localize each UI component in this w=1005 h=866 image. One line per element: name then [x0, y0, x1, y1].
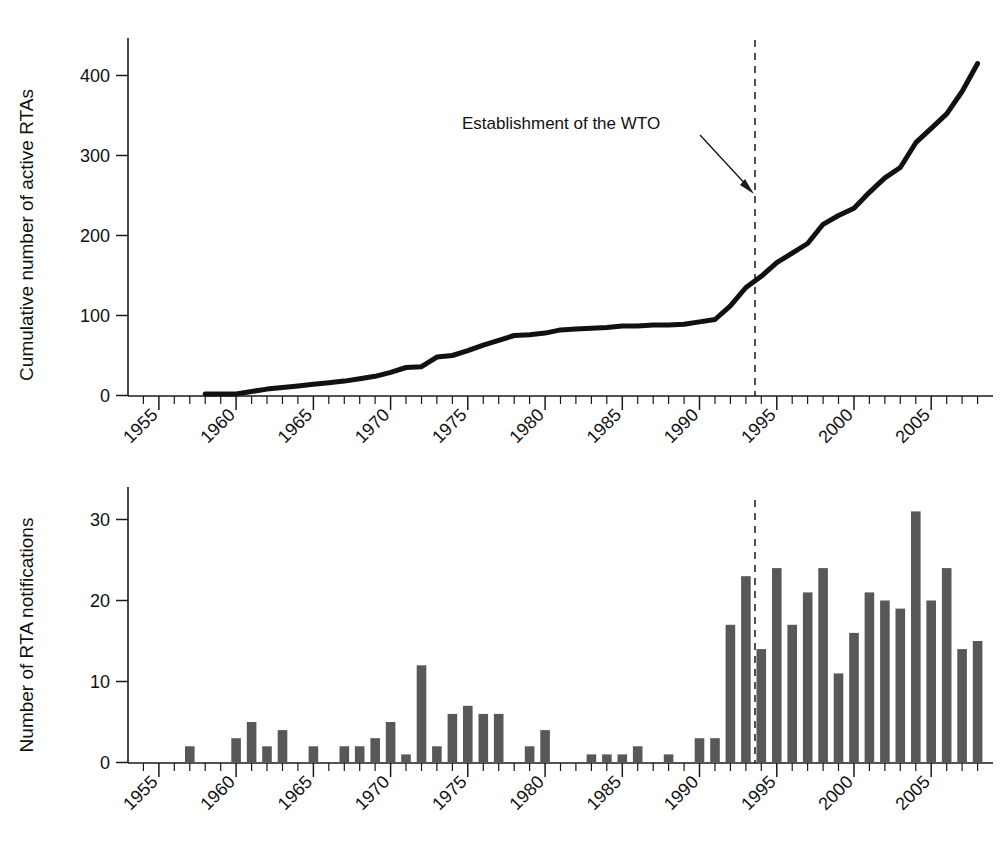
bar-1972 — [417, 665, 427, 762]
bar-1988 — [664, 754, 674, 762]
bar-2008 — [973, 641, 983, 763]
bar-1992 — [726, 625, 736, 763]
x-tick-label-1960: 1960 — [196, 405, 238, 447]
bar-1997 — [803, 592, 813, 762]
x-tick-label-1995: 1995 — [737, 772, 779, 814]
x-tick-label-1970: 1970 — [351, 405, 393, 447]
bar-1993 — [741, 576, 751, 762]
bar-1969 — [370, 738, 380, 762]
x-tick-label-2000: 2000 — [814, 405, 856, 447]
bottom-y-axis-label: Number of RTA notifications — [16, 518, 37, 753]
x-tick-label-2000: 2000 — [814, 772, 856, 814]
bar-1980 — [540, 730, 550, 762]
top-y-tick-label-200: 200 — [80, 226, 110, 246]
top-y-ticks: 0 100 200 300 400 — [80, 66, 128, 406]
bar-1967 — [340, 746, 350, 762]
bar-2007 — [957, 649, 967, 762]
x-tick-label-1965: 1965 — [274, 405, 316, 447]
x-tick-label-1995: 1995 — [737, 405, 779, 447]
bottom-y-tick-label-10: 10 — [90, 672, 110, 692]
top-y-tick-label-0: 0 — [100, 386, 110, 406]
bottom-panel-rta-notifications: Number of RTA notifications 0 10 20 30 1… — [16, 487, 993, 814]
bar-1983 — [587, 754, 597, 762]
bar-1979 — [525, 746, 535, 762]
bar-1995 — [772, 568, 782, 762]
bar-1968 — [355, 746, 365, 762]
x-tick-label-1955: 1955 — [119, 772, 161, 814]
rta-figure: Cumulative number of active RTAs 0 100 2… — [0, 0, 1005, 866]
top-y-tick-label-300: 300 — [80, 146, 110, 166]
x-tick-label-1960: 1960 — [196, 772, 238, 814]
rta-notification-bars — [185, 511, 982, 762]
bar-1976 — [479, 714, 489, 763]
bar-2006 — [942, 568, 952, 762]
bar-1961 — [247, 722, 257, 763]
chart-svg: Cumulative number of active RTAs 0 100 2… — [0, 0, 1005, 866]
top-x-ticks — [143, 396, 977, 410]
bar-1994 — [757, 649, 767, 762]
bar-1971 — [401, 754, 411, 762]
bar-1975 — [463, 706, 473, 763]
bar-2003 — [896, 609, 906, 763]
top-panel-cumulative-rtas: Cumulative number of active RTAs 0 100 2… — [16, 38, 993, 447]
bar-1986 — [633, 746, 643, 762]
bottom-y-tick-label-0: 0 — [100, 753, 110, 773]
x-tick-label-1985: 1985 — [583, 772, 625, 814]
bar-1996 — [787, 625, 797, 763]
bottom-x-ticks — [143, 763, 977, 777]
bar-1974 — [448, 714, 458, 763]
bottom-y-tick-label-20: 20 — [90, 591, 110, 611]
top-y-tick-label-400: 400 — [80, 66, 110, 86]
x-tick-label-2005: 2005 — [892, 772, 934, 814]
top-y-tick-label-100: 100 — [80, 306, 110, 326]
x-tick-label-1990: 1990 — [660, 772, 702, 814]
bar-1963 — [278, 730, 288, 762]
x-tick-label-1975: 1975 — [428, 772, 470, 814]
x-tick-label-1955: 1955 — [119, 405, 161, 447]
wto-annotation-label: Establishment of the WTO — [462, 114, 660, 133]
bar-1991 — [710, 738, 720, 762]
x-tick-label-1965: 1965 — [274, 772, 316, 814]
x-tick-label-1990: 1990 — [660, 405, 702, 447]
bar-1977 — [494, 714, 504, 763]
x-tick-label-1970: 1970 — [351, 772, 393, 814]
bar-1998 — [818, 568, 828, 762]
x-tick-label-1980: 1980 — [505, 405, 547, 447]
bar-1970 — [386, 722, 396, 763]
bar-1985 — [618, 754, 628, 762]
top-x-tick-labels: 1955196019651970197519801985199019952000… — [119, 405, 934, 447]
bar-1960 — [231, 738, 241, 762]
x-tick-label-1985: 1985 — [583, 405, 625, 447]
bar-1973 — [432, 746, 442, 762]
bar-2005 — [926, 601, 936, 763]
wto-annotation-arrow — [700, 135, 754, 194]
bar-1962 — [262, 746, 272, 762]
top-y-axis-label: Cumulative number of active RTAs — [16, 89, 37, 381]
bar-1984 — [602, 754, 612, 762]
bar-1990 — [695, 738, 705, 762]
bar-1999 — [834, 673, 844, 762]
bar-2004 — [911, 511, 921, 762]
bar-2000 — [849, 633, 859, 763]
bar-2002 — [880, 601, 890, 763]
x-tick-label-1975: 1975 — [428, 405, 470, 447]
bottom-y-tick-label-30: 30 — [90, 510, 110, 530]
bar-2001 — [865, 592, 875, 762]
x-tick-label-2005: 2005 — [892, 405, 934, 447]
bar-1965 — [309, 746, 319, 762]
bottom-y-ticks: 0 10 20 30 — [90, 510, 128, 773]
bottom-x-tick-labels: 1955196019651970197519801985199019952000… — [119, 772, 934, 814]
x-tick-label-1980: 1980 — [505, 772, 547, 814]
bar-1957 — [185, 746, 195, 762]
